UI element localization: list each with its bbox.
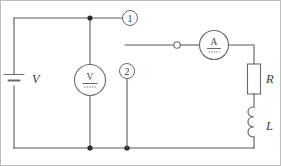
battery-symbol xyxy=(4,75,24,81)
ammeter: A xyxy=(200,31,229,60)
inductor-label: L xyxy=(265,119,273,133)
resistor: R xyxy=(248,64,275,94)
inductor-coil xyxy=(248,107,254,137)
open-terminal-icon[interactable] xyxy=(174,42,180,48)
terminal-1[interactable]: 1 xyxy=(123,11,138,26)
resistor-body xyxy=(248,64,261,94)
inductor: L xyxy=(248,107,273,137)
terminal-2-label: 2 xyxy=(125,66,130,77)
voltmeter-glyph: V xyxy=(87,72,94,82)
junction-dot-top xyxy=(87,15,92,20)
figure-border xyxy=(1,1,281,166)
terminal-2[interactable]: 2 xyxy=(120,64,135,79)
wire-ammeter-to-corner xyxy=(229,45,254,64)
circuit-diagram: V V 1 2 xyxy=(0,0,281,166)
resistor-label: R xyxy=(265,72,274,86)
voltmeter: V xyxy=(75,65,106,96)
source-label: V xyxy=(32,72,41,86)
junction-dot-voltmeter-bottom xyxy=(87,145,92,150)
terminal-1-label: 1 xyxy=(128,13,133,24)
ammeter-glyph: A xyxy=(211,37,218,47)
